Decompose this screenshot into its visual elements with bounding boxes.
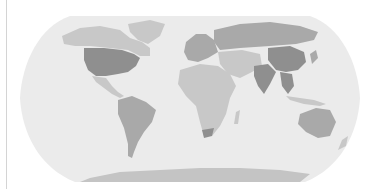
world-map	[0, 0, 375, 189]
world-map-svg	[0, 0, 375, 189]
